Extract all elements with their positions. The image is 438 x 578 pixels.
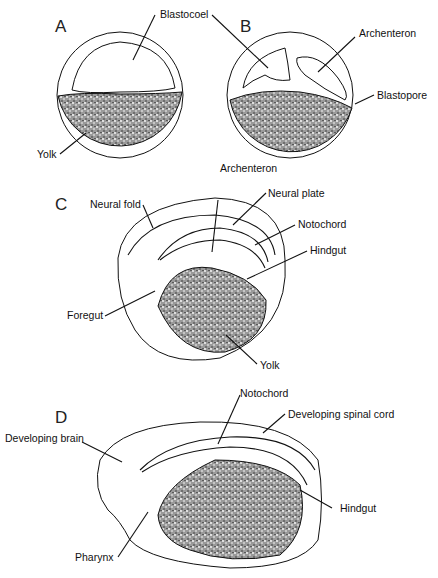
label-neural-fold: Neural fold [90,198,141,210]
label-developing-brain: Developing brain [5,432,84,444]
blastopore-leader [355,95,374,104]
panel-a: A Blastocoel Yolk [37,8,208,160]
label-notochord-c: Notochord [298,218,347,230]
label-blastopore: Blastopore [377,89,427,101]
panel-d: D Notochord Developing spinal cord Devel… [5,387,394,568]
label-neural-plate: Neural plate [268,187,325,199]
panel-b: B Archenteron Blastopore [212,15,427,158]
label-notochord-d: Notochord [240,387,289,399]
label-yolk-c: Yolk [260,359,280,371]
label-pharynx: Pharynx [75,551,114,563]
panel-a-letter: A [55,17,67,36]
label-archenteron-c: Archenteron [220,162,277,174]
label-hindgut-c: Hindgut [310,244,346,256]
label-yolk-a: Yolk [37,148,57,160]
panel-c-letter: C [55,195,67,214]
embryo-development-diagram: A Blastocoel Yolk B Archenteron Blastopo… [0,0,438,578]
label-blastocoel: Blastocoel [160,8,208,20]
panel-b-letter: B [240,17,251,36]
label-hindgut-d: Hindgut [340,502,376,514]
label-archenteron-b: Archenteron [359,27,416,39]
panel-c: C Archenteron Neural plate Neural fold N… [55,162,347,371]
label-developing-spinal-cord: Developing spinal cord [288,408,394,420]
label-foregut: Foregut [67,309,103,321]
panel-d-letter: D [55,408,67,427]
